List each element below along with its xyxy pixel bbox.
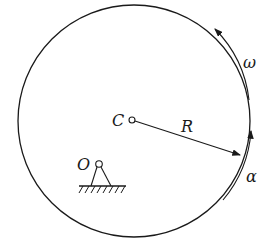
ground-hatching [79,186,125,193]
label-o: O [77,155,90,174]
pivot-point-o [96,161,103,168]
label-r: R [180,117,193,136]
label-c: C [112,111,124,130]
label-alpha: α [246,167,257,186]
label-omega: ω [243,53,256,72]
disk-diagram: C R O ω α [0,0,262,248]
center-point-c [129,117,135,123]
